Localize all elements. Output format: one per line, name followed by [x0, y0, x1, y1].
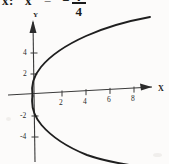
- y-tick-label-4: 4: [23, 48, 27, 57]
- y-axis-label: Y: [33, 11, 38, 19]
- x-axis-arrowhead: [140, 84, 152, 91]
- x-tick-label-8: 8: [131, 94, 135, 103]
- x-axis-label: X: [158, 84, 164, 93]
- y-tick-label-neg-2: -2: [20, 111, 26, 120]
- x-tick-label-6: 6: [107, 95, 111, 104]
- y-axis-line: [33, 22, 35, 162]
- y-tick-label-2: 2: [23, 69, 27, 78]
- y-axis-arrowhead: [30, 20, 37, 33]
- parabola-lower-branch: [32, 96, 136, 164]
- y-tick-label-neg-4: -4: [20, 132, 26, 141]
- x-tick-label-4: 4: [83, 97, 87, 106]
- parabola-upper-branch: [32, 17, 150, 96]
- x-tick-label-2: 2: [59, 98, 63, 107]
